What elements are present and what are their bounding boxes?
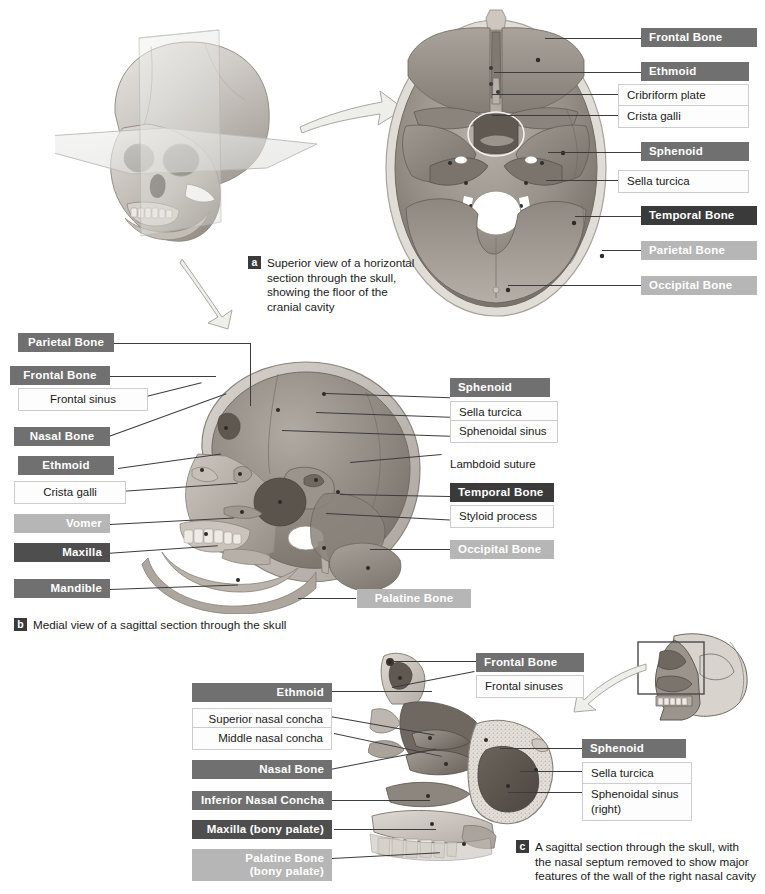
panel-c-caption: cA sagittal section through the skull, w… [516, 840, 764, 884]
leader-line [394, 661, 476, 662]
label-occipital-bone-b[interactable]: Occipital Bone [450, 540, 554, 559]
label-maxilla-b[interactable]: Maxilla [14, 543, 110, 562]
sublabel-crista-galli[interactable]: Crista galli [618, 105, 749, 128]
leader-line [575, 216, 641, 217]
label-mandible-b[interactable]: Mandible [14, 579, 110, 598]
label-occipital-bone-a[interactable]: Occipital Bone [641, 276, 757, 295]
sublabel-sella-turcica-c[interactable]: Sella turcica [582, 762, 692, 785]
leader-line [492, 115, 619, 116]
label-parietal-bone-a[interactable]: Parietal Bone [641, 241, 757, 260]
label-sphenoid-b[interactable]: Sphenoid [450, 378, 550, 397]
label-lambdoid-suture[interactable]: Lambdoid suture [450, 457, 536, 471]
sublabel-styloid-process[interactable]: Styloid process [450, 505, 554, 528]
skull-lateral-inset-icon [630, 626, 765, 724]
leader-line [500, 748, 582, 749]
sublabel-cribriform-plate[interactable]: Cribriform plate [618, 84, 749, 107]
panel-c-tag: c [516, 840, 529, 853]
panel-a-tag: a [248, 256, 261, 269]
sublabel-sphenoidal-sinus-right-c[interactable]: Sphenoidal sinus (right) [582, 783, 692, 821]
sublabel-sella-turcica-a[interactable]: Sella turcica [618, 170, 749, 193]
leader-line [250, 343, 251, 406]
leader-line [508, 792, 582, 793]
sublabel-crista-galli-b[interactable]: Crista galli [14, 481, 126, 504]
anatomy-figure: Frontal Bone Ethmoid Cribriform plate Cr… [0, 0, 765, 894]
leader-line [545, 38, 641, 39]
leader-line [520, 771, 582, 772]
leader-line [548, 152, 641, 153]
label-vomer-b[interactable]: Vomer [14, 514, 110, 533]
panel-c-caption-text: A sagittal section through the skull, wi… [535, 840, 757, 884]
label-frontal-bone-c[interactable]: Frontal Bone [476, 653, 584, 672]
sublabel-middle-nasal-concha[interactable]: Middle nasal concha [192, 727, 332, 750]
skull-with-section-planes-illustration [55, 8, 325, 258]
leader-line [602, 250, 641, 251]
label-frontal-bone-a[interactable]: Frontal Bone [641, 28, 757, 47]
label-palatine-bone-c-line2: (bony palate) [250, 865, 324, 877]
label-palatine-bone-c-line1: Palatine Bone [245, 852, 324, 864]
panel-b-tag: b [14, 618, 27, 631]
label-palatine-bone-c[interactable]: Palatine Bone (bony palate) [192, 849, 332, 881]
label-palatine-bone-b[interactable]: Palatine Bone [357, 589, 471, 608]
label-ethmoid-c[interactable]: Ethmoid [192, 683, 332, 702]
label-temporal-bone-a[interactable]: Temporal Bone [641, 206, 757, 225]
panel-b-caption-text: Medial view of a sagittal section throug… [33, 618, 286, 633]
sublabel-sphenoidal-sinus-b[interactable]: Sphenoidal sinus [450, 420, 558, 443]
label-frontal-bone-b[interactable]: Frontal Bone [10, 366, 110, 385]
leader-line [110, 343, 250, 344]
leader-line [370, 549, 450, 550]
leader-line [106, 376, 216, 377]
skull-sagittal-section-illustration [128, 352, 433, 614]
panel-a-caption-text: Superior view of a horizontal section th… [267, 256, 419, 314]
sublabel-frontal-sinus-b[interactable]: Frontal sinus [18, 388, 148, 411]
sublabel-frontal-sinuses-c[interactable]: Frontal sinuses [476, 675, 584, 698]
sublabel-sphenoidal-sinus-line2: (right) [591, 803, 621, 815]
leader-line [546, 180, 619, 181]
curved-arrow-down-icon [176, 255, 256, 330]
panel-b-caption: bMedial view of a sagittal section throu… [14, 618, 354, 633]
leader-line [298, 598, 356, 599]
label-sphenoid-a[interactable]: Sphenoid [641, 142, 749, 161]
label-maxilla-bony-palate-c[interactable]: Maxilla (bony palate) [192, 820, 332, 839]
label-sphenoid-c[interactable]: Sphenoid [582, 739, 686, 758]
label-parietal-bone-b[interactable]: Parietal Bone [18, 333, 114, 352]
leader-line [494, 72, 641, 73]
leader-line [508, 285, 641, 286]
leader-line [492, 94, 619, 95]
sublabel-sphenoidal-sinus-line1: Sphenoidal sinus [591, 788, 679, 800]
leader-line [332, 691, 432, 692]
label-nasal-bone-c[interactable]: Nasal Bone [192, 760, 332, 779]
leader-line [332, 800, 430, 801]
leader-line [334, 829, 436, 830]
label-ethmoid-b[interactable]: Ethmoid [18, 456, 114, 475]
label-nasal-bone-b[interactable]: Nasal Bone [14, 427, 110, 446]
panel-a-caption: aSuperior view of a horizontal section t… [248, 256, 428, 314]
label-inferior-nasal-concha-c[interactable]: Inferior Nasal Concha [192, 791, 332, 810]
label-temporal-bone-b[interactable]: Temporal Bone [450, 483, 554, 502]
label-ethmoid-a[interactable]: Ethmoid [641, 62, 749, 81]
